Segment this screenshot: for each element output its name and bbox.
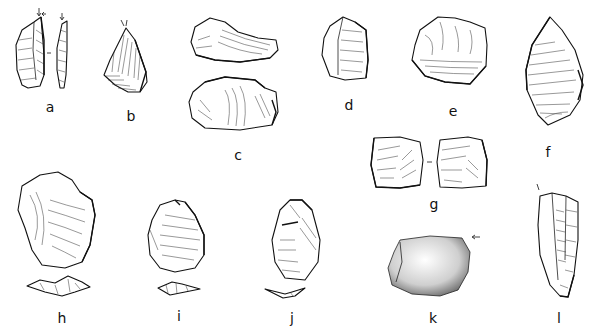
artifact-label-e: e xyxy=(449,104,458,118)
artifact-f-drawing xyxy=(526,17,583,125)
artifact-h-drawing xyxy=(18,172,95,296)
artifact-label-c: c xyxy=(234,148,242,162)
artifact-c-drawing xyxy=(189,18,278,130)
artifact-label-l: l xyxy=(557,311,561,325)
artifact-label-g: g xyxy=(430,197,439,211)
artifact-j-drawing xyxy=(265,200,320,298)
artifact-label-b: b xyxy=(127,109,136,123)
artifact-label-f: f xyxy=(546,145,551,159)
artifact-label-j: j xyxy=(290,311,294,325)
artifact-a-drawing xyxy=(16,8,67,88)
artifact-k-drawing xyxy=(388,235,480,296)
artifact-label-k: k xyxy=(429,311,437,325)
artifact-l-drawing xyxy=(537,184,578,297)
artifact-b-drawing xyxy=(104,20,147,92)
artifact-e-drawing xyxy=(412,17,487,84)
artifact-i-drawing xyxy=(148,200,204,295)
artifact-label-d: d xyxy=(345,98,354,112)
artifact-label-i: i xyxy=(177,309,181,323)
artifact-d-drawing xyxy=(322,17,368,80)
artifact-label-a: a xyxy=(46,100,55,114)
artifact-label-h: h xyxy=(58,311,67,325)
artifact-plate xyxy=(0,0,600,335)
artifact-g-drawing xyxy=(371,137,487,188)
